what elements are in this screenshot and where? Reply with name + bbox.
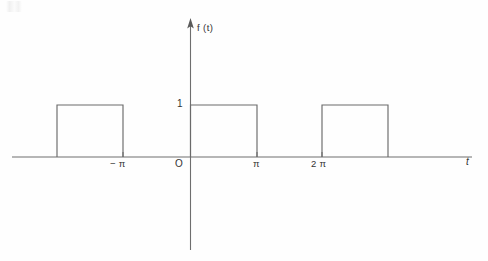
y-axis-label: f (t) xyxy=(197,23,213,33)
x-tick-label-neg-pi: − π xyxy=(110,159,126,169)
square-wave-plot xyxy=(0,0,488,261)
pulse-rect-2 xyxy=(191,105,258,157)
x-axis-label: t xyxy=(466,157,469,167)
pulse-rect-3 xyxy=(322,105,388,157)
figure-canvas: f (t) t 1 O − π π 2 π xyxy=(0,0,488,261)
x-tick-label-pi: π xyxy=(253,159,260,169)
origin-label: O xyxy=(175,159,183,169)
x-tick-label-two-pi: 2 π xyxy=(311,159,326,169)
pulse-rect-1 xyxy=(57,105,123,157)
y-tick-label-one: 1 xyxy=(177,99,183,109)
